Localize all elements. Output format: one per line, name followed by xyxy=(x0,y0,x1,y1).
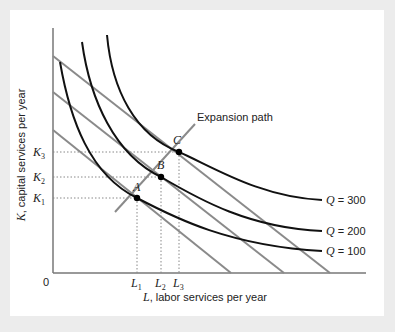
q300-label: Q = 300 xyxy=(326,193,366,207)
isocost-lines xyxy=(53,56,330,273)
isoquant-chart: A B C Expansion path Q = 300 Q = 200 Q =… xyxy=(0,0,395,332)
isoquant-q100 xyxy=(60,62,322,251)
point-c-label: C xyxy=(173,133,182,147)
x-tick-l3: L3 xyxy=(172,276,184,292)
point-b-label: B xyxy=(157,158,165,172)
x-tick-l1: L1 xyxy=(130,276,142,292)
point-c xyxy=(176,149,182,155)
expansion-path-line xyxy=(115,124,195,212)
x-axis-title: L, labor services per year xyxy=(142,290,267,304)
x-tick-l2: L2 xyxy=(154,276,166,292)
point-a xyxy=(134,195,140,201)
y-tick-k1: K1 xyxy=(32,191,45,207)
isoquant-q200 xyxy=(82,42,322,231)
y-tick-k2: K2 xyxy=(32,170,45,186)
point-b xyxy=(158,174,164,180)
expansion-path-label: Expansion path xyxy=(197,111,273,123)
q200-label: Q = 200 xyxy=(326,224,366,238)
isoquants xyxy=(60,35,322,251)
origin-label: 0 xyxy=(43,276,49,288)
y-axis-title: K, capital services per year xyxy=(14,88,28,222)
y-tick-k3: K3 xyxy=(32,145,45,161)
q100-label: Q = 100 xyxy=(326,244,366,258)
point-a-label: A xyxy=(132,180,141,194)
